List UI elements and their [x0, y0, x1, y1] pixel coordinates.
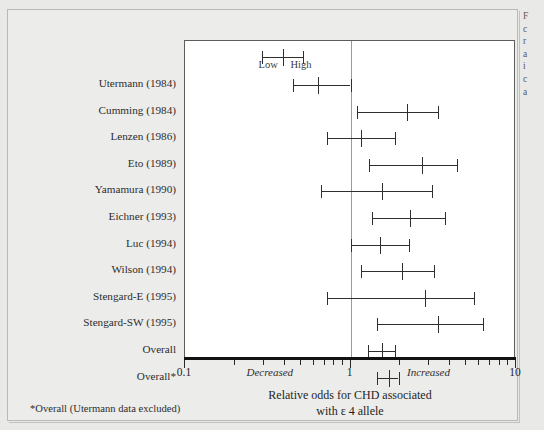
ci-lower-cap: [351, 239, 352, 252]
ci-lower-cap: [293, 79, 294, 92]
ci-upper-cap: [432, 185, 433, 198]
x-tick-label: 10: [509, 366, 521, 378]
figure-panel: Utermann (1984)Cumming (1984)Lenzen (198…: [7, 9, 518, 421]
ci-point-estimate: [422, 157, 423, 174]
ci-row: [185, 263, 514, 279]
x-axis-title-line2: with ε 4 allele: [184, 403, 516, 419]
figure-footnote: *Overall (Utermann data excluded): [30, 403, 180, 414]
row-label: Cumming (1984): [12, 104, 184, 116]
row-label: Utermann (1984): [12, 77, 184, 89]
row-label: Eto (1989): [12, 157, 184, 169]
legend-low-label: Low: [259, 59, 278, 70]
caption-fragment-line: r: [523, 35, 544, 48]
figure-page: Utermann (1984)Cumming (1984)Lenzen (198…: [0, 0, 544, 430]
ci-point-estimate: [361, 130, 362, 147]
ci-point-estimate: [318, 77, 319, 94]
ci-lower-cap: [377, 318, 378, 331]
ci-lower-cap: [372, 212, 373, 225]
ci-upper-cap: [483, 318, 484, 331]
ci-row: [185, 316, 514, 332]
ci-lower-cap: [321, 185, 322, 198]
ci-upper-cap: [351, 79, 352, 92]
row-label: Overall: [12, 343, 184, 355]
x-tick-minor: [478, 360, 479, 365]
caption-fragment-line: F: [523, 10, 544, 23]
row-label: Lenzen (1986): [12, 130, 184, 142]
ci-point-estimate: [425, 290, 426, 307]
ci-upper-cap: [474, 292, 475, 305]
x-tick-minor: [489, 360, 490, 365]
x-tick-minor: [499, 360, 500, 365]
x-tick-minor: [449, 360, 450, 365]
x-tick-minor: [333, 360, 334, 365]
row-label-column: Utermann (1984)Cumming (1984)Lenzen (198…: [8, 40, 184, 358]
ci-point-estimate: [407, 104, 408, 121]
ci-whisker-line: [361, 271, 435, 272]
ci-whisker-line: [321, 191, 432, 192]
ci-whisker-line: [369, 165, 457, 166]
row-label: Wilson (1994): [12, 263, 184, 275]
ci-point-estimate: [438, 316, 439, 333]
x-tick-minor: [313, 360, 314, 365]
ci-row: [185, 104, 514, 120]
ci-row: [185, 237, 514, 253]
caption-fragment-line: i: [523, 60, 544, 73]
x-direction-increased: Increased: [407, 366, 450, 378]
x-tick-minor: [263, 360, 264, 365]
x-axis-tick-labels: 0.1110DecreasedIncreased: [8, 366, 544, 382]
caption-fragment-line: c: [523, 23, 544, 36]
x-tick-label: 1: [347, 366, 353, 378]
ci-row: [185, 210, 514, 226]
row-label: Stengard-SW (1995): [12, 316, 184, 328]
ci-lower-cap: [361, 265, 362, 278]
forest-plot-area: Low High: [184, 40, 515, 358]
x-tick-minor: [399, 360, 400, 365]
ci-whisker-line: [377, 324, 483, 325]
ci-row: [185, 290, 514, 306]
ci-upper-cap: [445, 212, 446, 225]
ci-upper-cap: [457, 159, 458, 172]
row-label: Luc (1994): [12, 237, 184, 249]
ci-point-estimate: [410, 210, 411, 227]
ci-row: [185, 77, 514, 93]
legend-interval: [185, 49, 514, 65]
row-label: Eichner (1993): [12, 210, 184, 222]
x-tick-minor: [428, 360, 429, 365]
ci-upper-cap: [395, 132, 396, 145]
ci-lower-cap: [327, 132, 328, 145]
ci-upper-cap: [409, 239, 410, 252]
ci-point-estimate: [382, 183, 383, 200]
caption-fragment-line: c: [523, 73, 544, 86]
caption-fragment-line: a: [523, 48, 544, 61]
x-tick-minor: [342, 360, 343, 365]
clipped-caption-text: Fcraica: [523, 10, 544, 100]
ci-point-estimate: [402, 263, 403, 280]
ci-lower-cap: [369, 159, 370, 172]
legend-high-label: High: [290, 59, 311, 70]
x-tick-minor: [300, 360, 301, 365]
x-axis-title: Relative odds for CHD associated with ε …: [184, 387, 516, 419]
x-tick-label: 0.1: [177, 366, 191, 378]
ci-whisker-line: [327, 298, 474, 299]
ci-whisker-line: [372, 218, 444, 219]
x-direction-decreased: Decreased: [246, 366, 293, 378]
ci-row: [185, 157, 514, 173]
ci-whisker-line: [357, 112, 438, 113]
x-tick-minor: [234, 360, 235, 365]
ci-row: [185, 183, 514, 199]
caption-fragment-line: a: [523, 86, 544, 99]
ci-upper-cap: [434, 265, 435, 278]
ci-whisker-line: [293, 85, 350, 86]
ci-upper-cap: [438, 106, 439, 119]
row-label: Yamamura (1990): [12, 183, 184, 195]
x-tick-minor: [284, 360, 285, 365]
ci-lower-cap: [357, 106, 358, 119]
ci-row: [185, 130, 514, 146]
x-tick-minor: [507, 360, 508, 365]
x-tick-minor: [324, 360, 325, 365]
ci-lower-cap: [327, 292, 328, 305]
row-label: Stengard-E (1995): [12, 290, 184, 302]
x-tick-minor: [465, 360, 466, 365]
ci-point-estimate: [380, 237, 381, 254]
x-axis-title-line1: Relative odds for CHD associated: [184, 387, 516, 403]
